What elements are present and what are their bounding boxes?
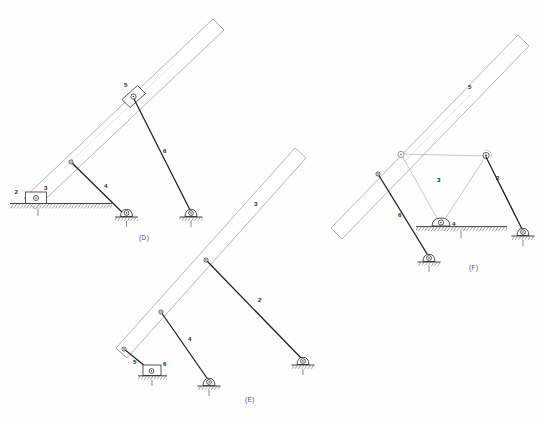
label-link-6-d: 6: [163, 147, 167, 154]
label-link-3-f: 3: [437, 176, 441, 183]
label-link-5-f: 5: [468, 83, 472, 90]
ground-line-f: [416, 227, 507, 238]
beam-link-3-d: [24, 19, 224, 209]
diagram-d: 2 3 4 5 6: [10, 19, 224, 227]
link-4-e: [159, 310, 209, 381]
caption-figure-d: (D): [139, 234, 149, 241]
label-link-2-f: 2: [496, 174, 500, 181]
pin-support-2-f: [512, 228, 535, 246]
pin-support-4-e: [198, 378, 221, 396]
label-link-6-f: 6: [398, 211, 402, 218]
label-link-5-d: 5: [124, 81, 128, 88]
diagram-f: 5 3 2 6 4: [331, 35, 535, 272]
pin-support-6-d: [180, 209, 203, 227]
label-link-3-e: 3: [254, 200, 258, 207]
label-link-3-d: 3: [44, 184, 48, 191]
slider-block-4-f: [432, 218, 450, 226]
beam-link-3-e: [116, 148, 306, 358]
label-link-2-e: 2: [258, 296, 262, 303]
caption-figure-f: (F): [469, 264, 479, 271]
slider-block-6-e: [138, 365, 167, 386]
pin-support-2-e: [292, 357, 315, 375]
link-6-d: [134, 99, 191, 212]
slider-block-2-d: [26, 192, 47, 204]
ground-line-d: [10, 204, 112, 217]
label-link-2-d: 2: [15, 188, 19, 195]
link-6-f: [376, 172, 429, 257]
diagram-e: 3 2 4 5 6: [116, 148, 315, 396]
pin-support-4-d: [115, 209, 138, 227]
label-link-4-d: 4: [104, 182, 108, 189]
label-link-4-f: 4: [452, 220, 456, 227]
link-2-e: [204, 258, 303, 360]
pin-support-6-f: [418, 254, 441, 272]
beam-link-5-f: [331, 35, 529, 239]
label-link-4-e: 4: [188, 335, 192, 342]
link-2-f: [486, 157, 523, 231]
diagram-sheet: 2 3 4 5 6: [0, 0, 542, 421]
linkage-drawing-canvas: 2 3 4 5 6: [0, 0, 542, 421]
caption-figure-e: (E): [245, 396, 255, 403]
label-link-6-e: 6: [163, 360, 167, 367]
label-link-5-e: 5: [133, 358, 137, 365]
